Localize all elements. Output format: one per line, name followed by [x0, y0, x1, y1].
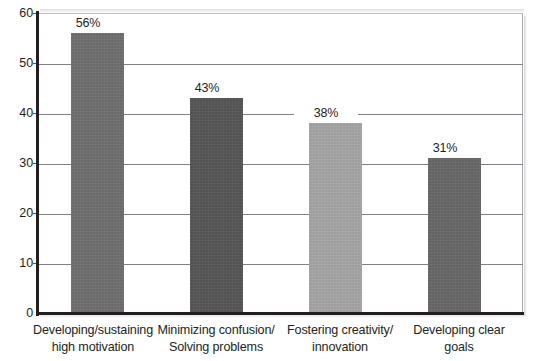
x-category-label-3: Fostering creativity/ innovation	[280, 322, 400, 355]
y-tick-label-30: 30	[0, 157, 33, 170]
value-label-bar-3: 38%	[294, 107, 358, 120]
bar-chart: 60 50 40 30 20 10 0	[0, 0, 535, 361]
y-tick-label-20: 20	[0, 207, 33, 220]
y-tick-label-0: 0	[0, 307, 33, 320]
x-category-label-3-line-2: innovation	[280, 339, 400, 356]
bar-developing-sustaining-high-motivation[interactable]	[71, 33, 124, 313]
value-label-bar-1: 56%	[56, 17, 120, 30]
x-category-label-3-line-1: Fostering creativity/	[280, 322, 400, 339]
x-category-label-1: Developing/sustaining high motivation	[28, 322, 158, 355]
value-label-bar-4: 31%	[413, 142, 477, 155]
x-category-label-1-line-2: high motivation	[28, 339, 158, 356]
bar-texture	[309, 123, 362, 313]
bar-texture	[428, 158, 481, 313]
frame-shadow-bottom	[40, 315, 524, 318]
x-category-label-2: Minimizing confusion/ Solving problems	[152, 322, 280, 355]
x-category-label-2-line-1: Minimizing confusion/	[152, 322, 280, 339]
y-tick-label-50: 50	[0, 57, 33, 70]
y-axis: 60 50 40 30 20 10 0	[0, 0, 33, 361]
bar-texture	[190, 98, 243, 313]
x-category-label-1-line-1: Developing/sustaining	[28, 322, 158, 339]
bar-minimizing-confusion-solving-problems[interactable]	[190, 98, 243, 313]
y-axis-spine	[36, 11, 39, 316]
bar-fostering-creativity-innovation[interactable]	[309, 123, 362, 313]
x-category-label-4-line-2: goals	[400, 339, 518, 356]
x-axis-spine	[36, 312, 524, 315]
bar-texture	[71, 33, 124, 313]
x-category-label-2-line-2: Solving problems	[152, 339, 280, 356]
frame-shadow-right	[524, 16, 527, 316]
value-label-bar-2: 43%	[175, 82, 239, 95]
x-category-label-4: Developing clear goals	[400, 322, 518, 355]
plot-area	[38, 13, 523, 313]
y-tick-label-40: 40	[0, 107, 33, 120]
y-tick-label-60: 60	[0, 7, 33, 20]
x-category-label-4-line-1: Developing clear	[400, 322, 518, 339]
bar-developing-clear-goals[interactable]	[428, 158, 481, 313]
y-tick-label-10: 10	[0, 257, 33, 270]
